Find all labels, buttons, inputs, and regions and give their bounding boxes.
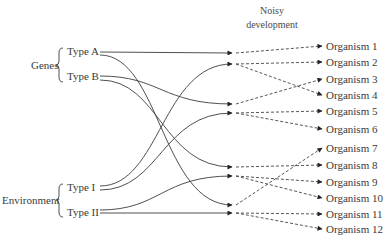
dashed-link-node-8-to-organism-12 bbox=[236, 213, 322, 229]
type-b-label: Type B bbox=[67, 70, 99, 82]
dashed-link-node-4-to-organism-6 bbox=[236, 113, 322, 129]
solid-link-type-b-node-5 bbox=[100, 80, 232, 167]
diagram: Noisy development Genes Type A Type B En… bbox=[0, 0, 389, 247]
type-i-label: Type I bbox=[67, 181, 96, 193]
dashed-link-node-2-to-organism-4 bbox=[236, 64, 322, 95]
dashed-link-node-3-to-organism-3 bbox=[236, 79, 322, 104]
dashed-link-node-1-to-organism-1 bbox=[236, 46, 322, 53]
organism-label-6: Organism 6 bbox=[326, 123, 378, 135]
organism-label-3: Organism 3 bbox=[326, 73, 378, 85]
header-noisy: Noisy bbox=[260, 5, 284, 16]
type-a-label: Type A bbox=[67, 45, 99, 57]
group-label-genes: Genes bbox=[31, 59, 59, 71]
solid-link-type-b-node-3 bbox=[100, 76, 232, 104]
type-ii-label: Type II bbox=[67, 206, 99, 218]
organism-label-4: Organism 4 bbox=[326, 89, 378, 101]
organism-label-2: Organism 2 bbox=[326, 56, 377, 68]
solid-link-type-a-node-1 bbox=[100, 52, 232, 53]
organism-label-10: Organism 10 bbox=[326, 192, 383, 204]
dashed-link-node-8-to-organism-11 bbox=[236, 213, 322, 214]
brace-environment bbox=[56, 184, 63, 217]
dashed-link-node-2-to-organism-2 bbox=[236, 62, 322, 64]
dashed-link-node-5-to-organism-8 bbox=[236, 165, 322, 167]
dashed-link-node-4-to-organism-5 bbox=[236, 111, 322, 113]
organism-label-5: Organism 5 bbox=[326, 105, 378, 117]
organism-label-12: Organism 12 bbox=[326, 223, 383, 235]
dashed-link-node-6-to-organism-10 bbox=[236, 176, 322, 198]
organism-label-7: Organism 7 bbox=[326, 142, 378, 154]
header-development: development bbox=[246, 19, 298, 30]
group-label-environment: Environment bbox=[2, 194, 59, 206]
organism-label-8: Organism 8 bbox=[326, 159, 378, 171]
solid-link-type-i-node-2 bbox=[100, 64, 232, 186]
organism-label-1: Organism 1 bbox=[326, 40, 377, 52]
solid-link-type-i-node-4 bbox=[100, 113, 232, 190]
brace-genes bbox=[56, 48, 63, 82]
organism-label-11: Organism 11 bbox=[326, 208, 383, 220]
organism-label-9: Organism 9 bbox=[326, 176, 378, 188]
